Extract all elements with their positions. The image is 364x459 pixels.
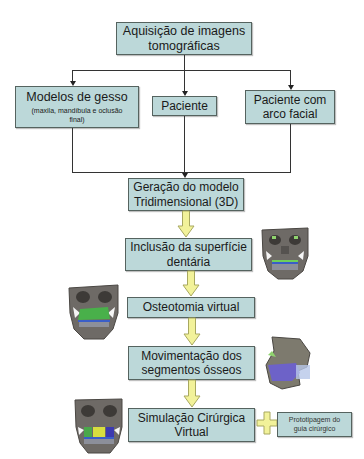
box-aquisicao-imagens: Aquisição de imagens tomográficas	[116, 22, 252, 55]
down-arrow-icon	[184, 318, 200, 346]
box-text-line1: Simulação Cirúrgica	[138, 411, 245, 425]
box-paciente-arco-facial: Paciente com arco facial	[245, 90, 335, 124]
connector-line	[290, 70, 291, 86]
box-movimentacao-segmentos: Movimentação dos segmentos ósseos	[128, 346, 255, 380]
box-text-line1: Aquisição de imagens	[123, 24, 245, 39]
box-text-line1: Movimentação dos	[141, 349, 242, 363]
down-arrow-icon	[184, 380, 200, 408]
skull-dental-surface-image	[258, 226, 313, 281]
connector-line	[72, 128, 73, 173]
down-arrow-icon	[178, 211, 194, 238]
box-text-line2: arco facial	[263, 107, 318, 121]
box-paciente: Paciente	[152, 96, 217, 116]
box-text-line1: Geração do modelo	[133, 180, 238, 194]
skull-osteotomy-image	[66, 283, 122, 341]
connector-line	[184, 70, 185, 92]
skull-simulation-image	[72, 397, 126, 455]
box-inclusao-superficie-dentaria: Inclusão da superfície dentária	[125, 238, 252, 271]
box-text-line1: Osteotomia virtual	[143, 300, 240, 314]
box-geracao-modelo-3d: Geração do modelo Tridimensional (3D)	[128, 178, 244, 211]
down-arrow-icon	[183, 271, 199, 297]
box-prototipagem-guia: Prototipagem do guia cirúrgico	[277, 412, 352, 437]
box-text-line2: Virtual	[175, 425, 209, 439]
box-osteotomia-virtual: Osteotomia virtual	[127, 297, 255, 318]
connector-line	[72, 70, 291, 71]
box-title: Modelos de gesso	[26, 90, 127, 105]
connector-line	[184, 55, 185, 70]
box-text-line2: Tridimensional (3D)	[134, 195, 238, 209]
box-text-line2: guia cirúrgico	[294, 425, 336, 433]
box-modelos-gesso: Modelos de gesso (maxila, mandíbula e oc…	[15, 86, 139, 128]
box-subtitle-line1: (maxila, mandíbula e oclusão	[31, 107, 122, 115]
connector-line	[184, 116, 185, 173]
plus-icon	[257, 412, 277, 434]
box-text-line2: dentária	[167, 255, 210, 269]
box-text-line2: tomográficas	[148, 39, 220, 54]
box-text-line2: segmentos ósseos	[141, 363, 241, 377]
box-text-line1: Inclusão da superfície	[130, 240, 247, 254]
connector-line	[290, 124, 291, 173]
box-subtitle-line2: final)	[69, 116, 84, 124]
box-text-line1: Prototipagem do	[289, 416, 340, 424]
box-text-line1: Paciente com	[254, 93, 327, 107]
skull-movement-image	[262, 335, 314, 391]
box-title: Paciente	[161, 99, 208, 113]
box-simulacao-cirurgica-virtual: Simulação Cirúrgica Virtual	[128, 408, 255, 442]
